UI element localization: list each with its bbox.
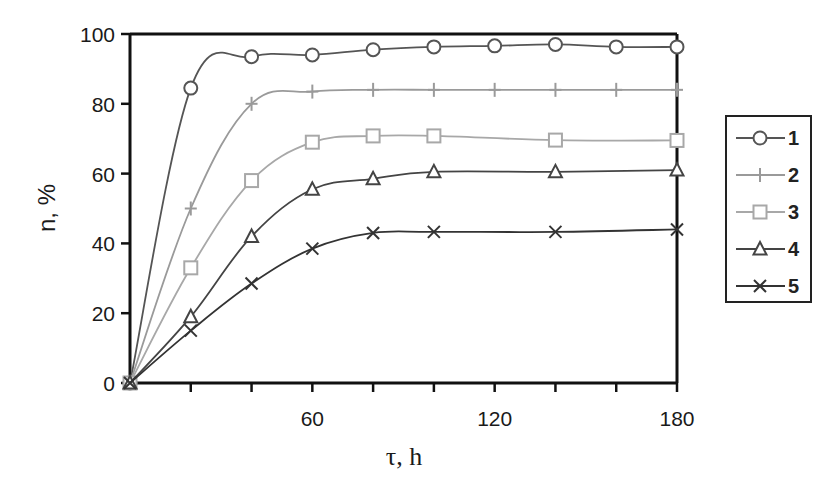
circle-marker-icon bbox=[367, 43, 380, 56]
plus-marker-icon bbox=[185, 202, 197, 216]
circle-marker-icon bbox=[671, 40, 684, 53]
series-3 bbox=[124, 129, 684, 389]
legend: 12345 bbox=[726, 116, 811, 302]
plus-marker-icon bbox=[367, 83, 379, 97]
series-4 bbox=[124, 163, 684, 388]
legend-label: 5 bbox=[788, 275, 799, 297]
circle-marker-icon bbox=[306, 48, 319, 61]
triangle-marker-icon bbox=[306, 182, 319, 195]
x-marker-icon bbox=[246, 278, 258, 290]
x-marker-icon bbox=[306, 243, 318, 255]
legend-label: 2 bbox=[788, 164, 799, 186]
series-layer bbox=[124, 38, 684, 390]
plus-marker-icon bbox=[489, 83, 501, 97]
y-tick-label: 0 bbox=[103, 372, 115, 395]
series-line bbox=[130, 229, 677, 383]
series-line bbox=[130, 170, 677, 383]
circle-marker-icon bbox=[184, 82, 197, 95]
y-tick-label: 60 bbox=[92, 163, 115, 186]
plus-marker-icon bbox=[610, 83, 622, 97]
y-axis-title: n, % bbox=[33, 184, 60, 232]
square-marker-icon bbox=[367, 129, 380, 142]
square-marker-icon bbox=[549, 134, 562, 147]
legend-label: 3 bbox=[788, 201, 799, 223]
plus-marker-icon bbox=[671, 83, 683, 97]
legend-label: 4 bbox=[788, 238, 800, 260]
legend-label: 1 bbox=[788, 127, 799, 149]
square-marker-icon bbox=[306, 136, 319, 149]
square-marker-icon bbox=[754, 206, 767, 219]
y-tick-label: 40 bbox=[92, 232, 115, 255]
series-line bbox=[130, 90, 677, 383]
circle-marker-icon bbox=[488, 39, 501, 52]
circle-marker-icon bbox=[427, 40, 440, 53]
y-tick-label: 80 bbox=[92, 93, 115, 116]
x-tick-label: 60 bbox=[301, 407, 324, 430]
x-axis-title: τ, h bbox=[386, 442, 422, 471]
series-5 bbox=[124, 223, 683, 389]
square-marker-icon bbox=[245, 174, 258, 187]
square-marker-icon bbox=[184, 261, 197, 274]
circle-marker-icon bbox=[245, 50, 258, 63]
plus-marker-icon bbox=[306, 85, 318, 99]
series-2 bbox=[124, 83, 683, 390]
circle-marker-icon bbox=[549, 38, 562, 51]
y-tick-label: 20 bbox=[92, 302, 115, 325]
plus-marker-icon bbox=[428, 83, 440, 97]
square-marker-icon bbox=[427, 129, 440, 142]
chart-canvas: 02040608010060120180 12345 τ, h n, % bbox=[0, 0, 840, 490]
axes: 02040608010060120180 bbox=[80, 23, 695, 430]
x-tick-label: 120 bbox=[477, 407, 512, 430]
x-marker-icon bbox=[185, 325, 197, 337]
series-line bbox=[130, 44, 677, 383]
square-marker-icon bbox=[671, 134, 684, 147]
y-tick-label: 100 bbox=[80, 23, 115, 46]
x-tick-label: 180 bbox=[659, 407, 694, 430]
circle-marker-icon bbox=[610, 40, 623, 53]
circle-marker-icon bbox=[754, 132, 767, 145]
series-line bbox=[130, 135, 677, 383]
plus-marker-icon bbox=[549, 83, 561, 97]
